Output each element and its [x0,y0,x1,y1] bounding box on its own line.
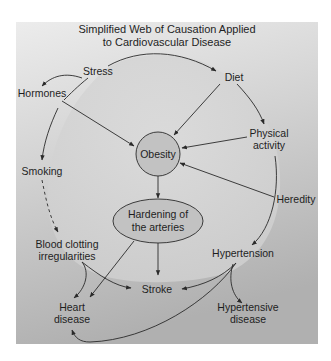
diagram-title-line1: Simplified Web of Causation Applied [78,23,255,35]
label-hardening-line1: Hardening of [128,208,188,220]
label-hypertensive-disease-line2: disease [230,313,266,325]
label-stress: Stress [83,65,113,77]
label-blood-clotting-line2: irregularities [38,250,95,262]
diagram-title-line2: to Cardiovascular Disease [103,36,231,48]
label-hypertensive-disease-line1: Hypertensive [217,301,278,313]
label-heart-disease-line1: Heart [59,301,85,313]
label-blood-clotting-line1: Blood clotting [35,238,98,250]
label-physical-activity-line2: activity [253,139,286,151]
label-hormones: Hormones [18,87,66,99]
label-heart-disease-line2: disease [54,313,90,325]
label-physical-activity-line1: Physical [249,127,288,139]
label-heredity: Heredity [276,193,316,205]
label-smoking: Smoking [22,165,63,177]
label-hardening-line2: the arteries [132,221,185,233]
causation-web-figure: Simplified Web of Causation Applied to C… [0,0,331,361]
label-stroke: Stroke [142,283,173,295]
label-obesity: Obesity [140,148,176,160]
label-diet: Diet [225,71,244,83]
label-hypertension: Hypertension [212,247,274,259]
